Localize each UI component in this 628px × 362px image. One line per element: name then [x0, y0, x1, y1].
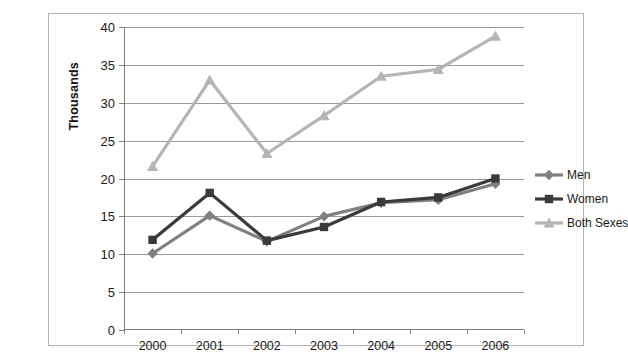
x-axis-tick-label: 2005	[424, 339, 452, 353]
legend-item-women[interactable]: Women	[534, 187, 626, 211]
data-point-marker	[320, 223, 328, 231]
scan-artifact-text	[0, 0, 587, 10]
y-axis-tick-label: 40	[101, 20, 115, 35]
legend-key-triangle-icon	[534, 217, 564, 229]
legend-item-men[interactable]: Men	[534, 163, 626, 187]
y-axis-tick-label: 35	[101, 57, 115, 72]
y-axis-title: Thousands	[67, 62, 81, 130]
x-axis-tick-label: 2003	[310, 339, 338, 353]
x-axis-tick	[524, 330, 525, 334]
y-axis-tick-label: 25	[101, 133, 115, 148]
data-point-marker	[544, 170, 554, 180]
legend-item-both-sexes[interactable]: Both Sexes	[534, 211, 626, 235]
chart-frame: Thousands 0510152025303540 2000200120022…	[48, 13, 584, 346]
legend-key-square-icon	[534, 193, 564, 205]
data-point-marker	[206, 189, 214, 197]
y-axis-tick-label: 15	[101, 209, 115, 224]
y-axis-tick-label: 0	[108, 323, 115, 338]
x-axis-tick	[295, 330, 296, 334]
data-point-marker	[377, 198, 385, 206]
y-axis-tick-label: 10	[101, 247, 115, 262]
x-axis-tick	[238, 330, 239, 334]
x-axis-tick	[124, 330, 125, 334]
series-lines	[124, 27, 424, 177]
x-axis-tick	[410, 330, 411, 334]
x-axis-tick	[467, 330, 468, 334]
data-point-marker	[263, 236, 271, 244]
x-axis-tick-label: 2001	[196, 339, 224, 353]
legend-label: Both Sexes	[567, 216, 628, 230]
data-point-marker	[204, 74, 215, 84]
x-axis-tick	[353, 330, 354, 334]
legend-key-diamond-icon	[534, 169, 564, 181]
data-point-marker	[545, 195, 553, 203]
y-axis-tick-label: 20	[101, 171, 115, 186]
legend-label: Women	[567, 192, 608, 206]
x-axis-tick	[181, 330, 182, 334]
y-axis-tick-label: 5	[108, 285, 115, 300]
x-axis-tick-label: 2004	[367, 339, 395, 353]
data-point-marker	[491, 174, 499, 182]
y-axis-tick-label: 30	[101, 95, 115, 110]
x-axis-tick-label: 2006	[482, 339, 510, 353]
x-axis-tick-label: 2002	[253, 339, 281, 353]
data-point-marker	[148, 236, 156, 244]
chart-legend: MenWomenBoth Sexes	[534, 163, 626, 235]
legend-label: Men	[567, 168, 590, 182]
x-axis-tick-label: 2000	[139, 339, 167, 353]
plot-area: 0510152025303540 20002001200220032004200…	[124, 27, 524, 330]
data-point-marker	[434, 193, 442, 201]
